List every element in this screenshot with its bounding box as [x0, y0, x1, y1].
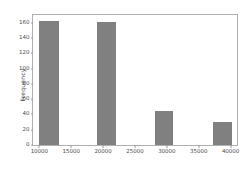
y-tick-mark [31, 22, 34, 23]
y-tick-mark [31, 53, 34, 54]
histogram-figure: Frequency 020406080100120140160 10000150… [0, 0, 249, 169]
y-tick-mark [31, 114, 34, 115]
x-tick-mark [135, 145, 136, 148]
x-tick-mark [230, 145, 231, 148]
y-tick-mark [31, 68, 34, 69]
histogram-bar [39, 21, 58, 145]
y-tick-mark [31, 99, 34, 100]
bars-layer [33, 15, 237, 145]
x-tick-mark [39, 145, 40, 148]
x-tick-mark [71, 145, 72, 148]
y-tick-mark [31, 37, 34, 38]
plot-area: 020406080100120140160 100001500020000250… [32, 14, 238, 146]
histogram-bar [155, 111, 173, 145]
x-tick-mark [166, 145, 167, 148]
x-tick-mark [198, 145, 199, 148]
histogram-bar [97, 22, 116, 145]
x-tick-mark [103, 145, 104, 148]
histogram-bar [213, 122, 231, 145]
y-tick-mark [31, 83, 34, 84]
y-tick-mark [31, 129, 34, 130]
